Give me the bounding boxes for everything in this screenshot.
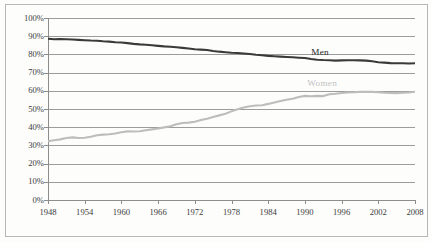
- series-label-men: Men: [311, 48, 329, 57]
- y-axis-tick-label: 10%: [0, 177, 44, 185]
- y-axis-tick-label: 20%: [0, 159, 44, 167]
- y-axis-tick-label: 30%: [0, 141, 44, 149]
- y-axis-tick-label: 60%: [0, 86, 44, 94]
- x-axis-tick-label: 1996: [322, 208, 362, 217]
- x-axis-tick-label: 1960: [101, 208, 141, 217]
- x-axis-tick-label: 1990: [285, 208, 325, 217]
- series-label-women: Women: [307, 79, 337, 88]
- x-axis-tick: [415, 200, 416, 204]
- x-axis-tick-label: 2002: [358, 208, 398, 217]
- y-axis-tick-label: 50%: [0, 105, 44, 113]
- series-line-men: [48, 39, 415, 64]
- x-axis-tick-label: 1978: [212, 208, 252, 217]
- x-axis-tick-label: 2008: [395, 208, 431, 217]
- y-axis-tick-label: 40%: [0, 123, 44, 131]
- y-axis-tick-label: 90%: [0, 32, 44, 40]
- x-axis-tick-label: 1948: [28, 208, 68, 217]
- x-axis-tick-label: 1984: [248, 208, 288, 217]
- y-axis-tick-label: 80%: [0, 50, 44, 58]
- x-axis-tick-label: 1954: [65, 208, 105, 217]
- x-axis-tick-label: 1972: [175, 208, 215, 217]
- y-axis-tick-label: 100%: [0, 14, 44, 22]
- x-axis-tick-label: 1966: [138, 208, 178, 217]
- y-axis-tick-label: 0%: [0, 196, 44, 204]
- series-plot: [48, 18, 415, 201]
- series-line-women: [48, 92, 415, 141]
- y-axis-tick-label: 70%: [0, 68, 44, 76]
- chart-figure: 0%10%20%30%40%50%60%70%80%90%100% 194819…: [0, 0, 431, 243]
